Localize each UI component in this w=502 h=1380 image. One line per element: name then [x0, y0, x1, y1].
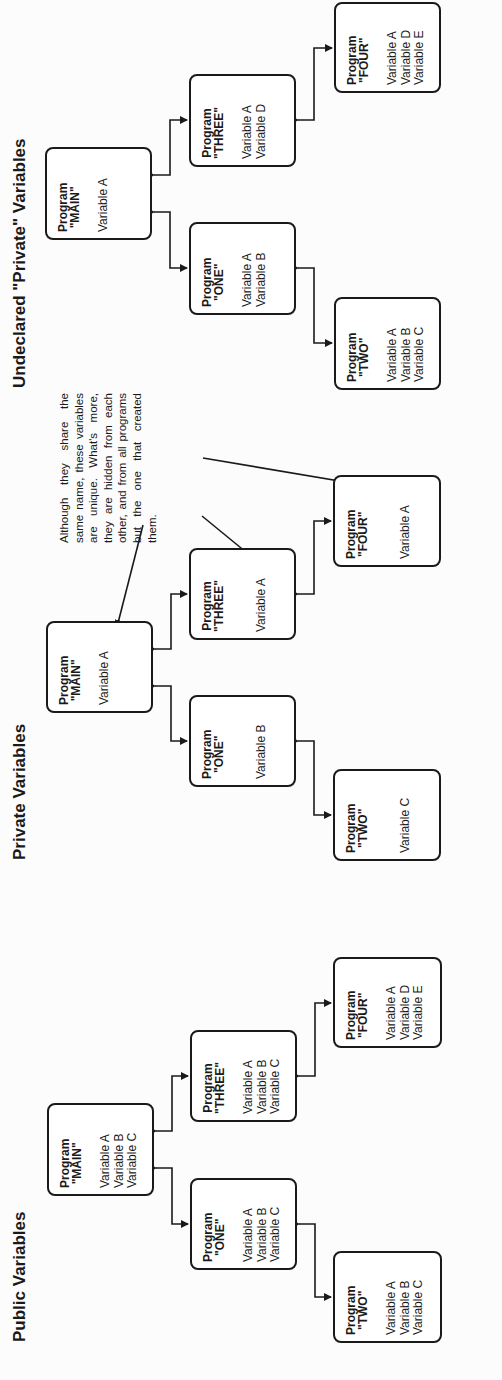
program-name: "THREE" [214, 1062, 226, 1114]
variable-item: Variable A [242, 1188, 256, 1262]
variable-item: Variable C [269, 1188, 283, 1262]
program-box-one: Program"ONE" Variable A Variable B [189, 222, 296, 315]
section-title-private: Private Variables [10, 724, 30, 860]
variable-item: Variable A [242, 1040, 256, 1114]
variable-item: Variable B [256, 1040, 270, 1114]
program-name: "FOUR" [357, 510, 369, 559]
program-box-main: Program"MAIN" Variable A [46, 621, 153, 713]
variable-item: Variable C [269, 1040, 283, 1114]
variable-item: Variable C [399, 779, 413, 853]
program-name: "FOUR" [357, 991, 369, 1040]
variable-item: Variable A [241, 84, 255, 159]
connector-one-two [299, 1224, 331, 1297]
connector-main-three [156, 1076, 188, 1131]
connector-main-three [155, 594, 187, 649]
connector-three-four [298, 521, 331, 594]
variable-list: Variable A Variable B Variable C [99, 1113, 140, 1188]
connector-one-two [298, 268, 332, 343]
variable-item: Variable A [386, 307, 400, 382]
section-title-undeclared: Undeclared "Private" Variables [10, 138, 30, 388]
variable-item: Variable E [412, 967, 426, 1040]
connector-main-one [156, 1168, 188, 1224]
variable-list: Variable A Variable B Variable C [386, 307, 427, 382]
section-title-public: Public Variables [10, 1212, 30, 1342]
variable-item: Variable B [400, 307, 414, 382]
variable-item: Variable A [99, 1113, 113, 1188]
program-name: "ONE" [213, 258, 225, 307]
program-name: "ONE" [213, 730, 225, 779]
program-name: "MAIN" [69, 183, 81, 232]
variable-item: Variable A [385, 967, 399, 1040]
program-box-three: Program"THREE" Variable A Variable D [189, 74, 296, 167]
connector-three-four [299, 1003, 331, 1076]
variable-list: Variable A [98, 631, 112, 705]
variable-item: Variable D [399, 967, 413, 1040]
program-box-one: Program"ONE" Variable B [189, 695, 296, 787]
variable-item: Variable D [400, 12, 414, 85]
variable-item: Variable B [113, 1113, 127, 1188]
program-box-two: Program"TWO" Variable C [333, 769, 441, 861]
variable-list: Variable B [255, 705, 269, 779]
variable-list: Variable A Variable B Variable C [385, 1261, 426, 1335]
variable-list: Variable A Variable B [241, 232, 268, 307]
variable-item: Variable A [385, 1261, 399, 1335]
program-name: "THREE" [213, 580, 225, 632]
variable-item: Variable B [255, 705, 269, 779]
variable-item: Variable A [241, 232, 255, 307]
program-name: "TWO" [357, 1286, 369, 1335]
program-box-three: Program"THREE" Variable A [189, 548, 296, 640]
variable-list: Variable A Variable D Variable E [385, 967, 426, 1040]
program-box-four: Program"FOUR" Variable A [333, 475, 441, 567]
program-name: "THREE" [213, 107, 225, 159]
program-box-main: Program"MAIN" Variable A [45, 147, 152, 240]
variable-list: Variable C [399, 779, 413, 853]
variable-item: Variable E [413, 12, 427, 85]
program-name: "ONE" [214, 1213, 226, 1262]
variable-item: Variable B [255, 232, 269, 307]
variable-item: Variable A [98, 631, 112, 705]
variable-item: Variable C [412, 1261, 426, 1335]
program-name: "TWO" [358, 333, 370, 382]
program-box-one: Program"ONE" Variable A Variable B Varia… [190, 1178, 297, 1270]
variable-list: Variable A [399, 485, 413, 559]
variable-item: Variable C [413, 307, 427, 382]
variable-item: Variable D [255, 84, 269, 159]
connector-main-three [154, 120, 187, 175]
variable-list: Variable A Variable B Variable C [242, 1040, 283, 1114]
program-name: "MAIN" [71, 1139, 83, 1188]
program-box-two: Program"TWO" Variable A Variable B Varia… [334, 297, 441, 390]
variable-list: Variable A [97, 157, 111, 232]
program-box-two: Program"TWO" Variable A Variable B Varia… [333, 1251, 442, 1343]
diagram-page: Public Variables Private Variables Undec… [0, 0, 502, 1380]
connector-main-one [155, 686, 187, 741]
connector-one-two [298, 741, 331, 815]
variable-list: Variable A Variable D Variable E [386, 12, 427, 85]
variable-list: Variable A [255, 558, 269, 632]
variable-list: Variable A Variable D [241, 84, 268, 159]
variable-item: Variable B [256, 1188, 270, 1262]
variable-item: Variable A [255, 558, 269, 632]
connector-three-four [298, 48, 332, 120]
program-box-four: Program"FOUR" Variable A Variable D Vari… [334, 2, 441, 93]
program-box-three: Program"THREE" Variable A Variable B Var… [190, 1030, 297, 1122]
connector-main-one [154, 212, 187, 268]
program-box-four: Program"FOUR" Variable A Variable D Vari… [333, 957, 442, 1048]
variable-list: Variable A Variable B Variable C [242, 1188, 283, 1262]
program-name: "MAIN" [70, 656, 82, 705]
variable-item: Variable C [126, 1113, 140, 1188]
variable-item: Variable B [399, 1261, 413, 1335]
variable-item: Variable A [386, 12, 400, 85]
variable-item: Variable A [399, 485, 413, 559]
variable-item: Variable A [97, 157, 111, 232]
program-name: "FOUR" [358, 36, 370, 85]
program-box-main: Program"MAIN" Variable A Variable B Vari… [47, 1103, 154, 1196]
program-name: "TWO" [357, 804, 369, 853]
annotation-text: Although they share the same name, these… [57, 393, 159, 543]
